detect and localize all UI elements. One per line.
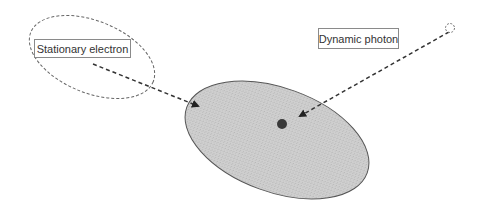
particle-dot xyxy=(277,119,287,129)
dynamic-photon-label: Dynamic photon xyxy=(318,28,399,49)
atom-ellipse xyxy=(169,58,385,201)
diagram-canvas xyxy=(0,0,478,201)
electron-arrow xyxy=(93,64,198,106)
stationary-electron-label: Stationary electron xyxy=(34,39,131,58)
stationary-electron-text: Stationary electron xyxy=(37,43,129,55)
photon-source-circle xyxy=(446,24,455,33)
dynamic-photon-text: Dynamic photon xyxy=(319,33,399,45)
